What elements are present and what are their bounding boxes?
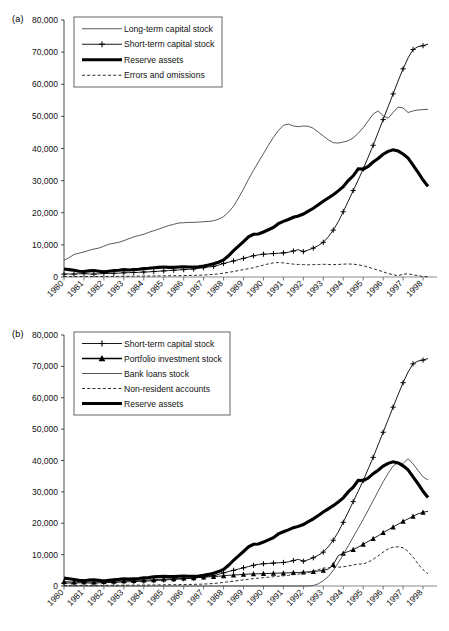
x-tick-label: 1983 [105,278,126,299]
x-tick-label: 1997 [384,278,405,299]
chart-legend: Long-term capital stockShort-term capita… [74,17,222,87]
series-line-portfolio-investment-stock [61,509,428,584]
legend-label: Errors and omissions [124,70,205,80]
y-tick-label: 10,000 [32,550,58,560]
y-tick-label: 40,000 [32,144,58,154]
x-tick-label: 1986 [165,278,186,299]
x-tick-label: 1982 [85,587,106,608]
legend-label: Long-term capital stock [124,24,214,34]
legend-label: Short-term capital stock [124,339,215,349]
y-tick-label: 70,000 [32,47,58,57]
x-tick-label: 1988 [205,587,226,608]
x-tick-label: 1981 [65,278,86,299]
x-tick-label: 1987 [185,278,206,299]
x-tick-label: 1992 [284,278,305,299]
x-tick-label: 1980 [45,587,66,608]
x-tick-label: 1990 [244,587,265,608]
chart-panel-a: (a) 010,00020,00030,00040,00050,00060,00… [0,0,449,315]
legend-label: Bank loans stock [124,369,190,379]
x-tick-label: 1997 [384,587,405,608]
y-tick-label: 60,000 [32,79,58,89]
x-tick-label: 1980 [45,278,66,299]
x-tick-label: 1986 [165,587,186,608]
y-tick-label: 30,000 [32,487,58,497]
y-tick-label: 80,000 [32,330,58,340]
series-line-reserve-assets [64,150,428,272]
legend-label: Short-term capital stock [124,39,215,49]
y-tick-label: 30,000 [32,176,58,186]
y-tick-label: 10,000 [32,240,58,250]
x-tick-label: 1989 [224,278,245,299]
x-tick-label: 1985 [145,587,166,608]
x-tick-label: 1995 [344,587,365,608]
legend-label: Reserve assets [124,399,183,409]
x-tick-label: 1998 [404,587,425,608]
x-tick-label: 1984 [125,587,146,608]
x-tick-label: 1996 [364,587,385,608]
chart-panel-b: (b) 010,00020,00030,00040,00050,00060,00… [0,315,449,631]
x-tick-label: 1991 [264,587,285,608]
chart-a-svg: 010,00020,00030,00040,00050,00060,00070,… [0,0,449,315]
legend-label: Non-resident accounts [124,384,210,394]
legend-label: Portfolio investment stock [124,354,223,364]
legend-label: Reserve assets [124,55,183,65]
x-tick-label: 1991 [264,278,285,299]
x-tick-label: 1994 [324,587,345,608]
x-tick-label: 1985 [145,278,166,299]
x-tick-label: 1990 [244,278,265,299]
x-tick-label: 1993 [304,587,325,608]
x-tick-label: 1994 [324,278,345,299]
x-tick-label: 1996 [364,278,385,299]
x-tick-label: 1988 [205,278,226,299]
x-tick-label: 1995 [344,278,365,299]
x-tick-label: 1989 [224,587,245,608]
y-tick-label: 60,000 [32,393,58,403]
y-tick-label: 50,000 [32,424,58,434]
x-tick-label: 1998 [404,278,425,299]
series-line-reserve-assets [64,462,428,581]
y-tick-label: 80,000 [32,15,58,25]
x-tick-label: 1993 [304,278,325,299]
x-tick-label: 1987 [185,587,206,608]
chart-b-svg: 010,00020,00030,00040,00050,00060,00070,… [0,315,449,631]
y-tick-label: 20,000 [32,208,58,218]
figure-page: (a) 010,00020,00030,00040,00050,00060,00… [0,0,449,631]
x-tick-label: 1982 [85,278,106,299]
y-tick-label: 50,000 [32,111,58,121]
y-tick-label: 20,000 [32,518,58,528]
chart-legend: Short-term capital stockPortfolio invest… [74,332,230,415]
x-tick-label: 1983 [105,587,126,608]
y-tick-label: 40,000 [32,456,58,466]
x-tick-label: 1992 [284,587,305,608]
y-tick-label: 70,000 [32,361,58,371]
x-tick-label: 1984 [125,278,146,299]
x-tick-label: 1981 [65,587,86,608]
